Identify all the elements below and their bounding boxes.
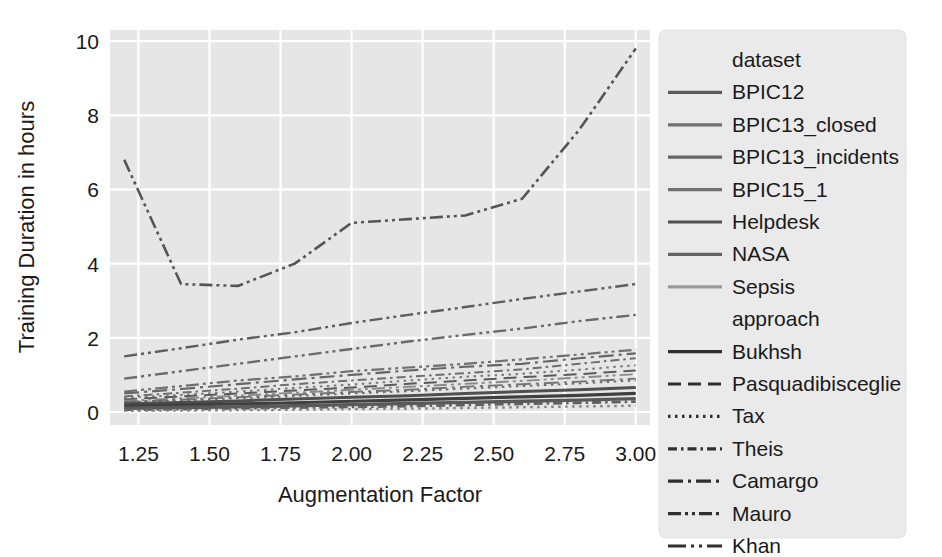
legend-item-label: Tax	[732, 404, 765, 427]
legend-item-label: Camargo	[732, 469, 818, 492]
x-tick-label: 2.75	[544, 442, 585, 465]
x-tick-label: 3.00	[615, 442, 656, 465]
y-tick-label: 0	[87, 401, 99, 424]
x-tick-label: 1.50	[189, 442, 230, 465]
legend-group-title: approach	[732, 307, 820, 330]
legend-item-label: Mauro	[732, 502, 792, 525]
legend-item-label: Helpdesk	[732, 210, 820, 233]
x-tick-label: 1.25	[118, 442, 159, 465]
legend-item-label: BPIC13_closed	[732, 113, 877, 137]
legend-item-label: BPIC15_1	[732, 178, 828, 202]
y-tick-label: 6	[87, 178, 99, 201]
legend-item-label: Sepsis	[732, 275, 795, 298]
chart-figure: 1.251.501.752.002.252.502.753.00 0246810…	[0, 0, 942, 557]
y-tick-label: 10	[76, 30, 99, 53]
legend-item-label: Pasquadibisceglie	[732, 372, 901, 395]
x-tick-label: 2.50	[473, 442, 514, 465]
x-tick-label: 2.25	[402, 442, 443, 465]
legend-group-title: dataset	[732, 48, 801, 71]
legend-item-label: NASA	[732, 242, 789, 265]
legend-item-label: Theis	[732, 437, 783, 460]
legend-item-label: BPIC12	[732, 80, 804, 103]
legend-item-label: Khan	[732, 534, 781, 557]
y-tick-label: 2	[87, 327, 99, 350]
legend-item-label: Bukhsh	[732, 340, 802, 363]
chart-legend[interactable]: datasetBPIC12BPIC13_closedBPIC13_inciden…	[659, 30, 906, 557]
legend-item-label: BPIC13_incidents	[732, 145, 899, 169]
y-axis-title: Training Duration in hours	[14, 101, 39, 353]
training-duration-line-chart: 1.251.501.752.002.252.502.753.00 0246810…	[0, 0, 942, 557]
x-tick-label: 2.00	[331, 442, 372, 465]
y-tick-label: 8	[87, 104, 99, 127]
x-axis-title: Augmentation Factor	[278, 482, 482, 507]
x-tick-label: 1.75	[260, 442, 301, 465]
y-tick-label: 4	[87, 253, 99, 276]
plot-area-background	[110, 30, 650, 425]
